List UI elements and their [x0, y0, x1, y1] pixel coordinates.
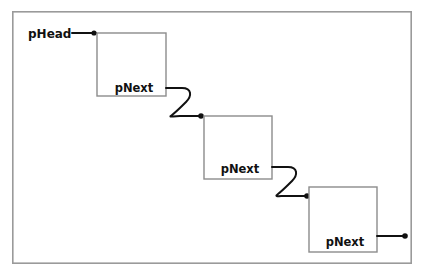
link-terminator-dot — [402, 233, 408, 239]
linked-list-diagram: pHead pNext pNext pNext — [0, 0, 424, 276]
node-label-2: pNext — [221, 162, 260, 176]
link-node1-to-node2-dot — [198, 113, 204, 119]
diagram-canvas: pHead pNext pNext pNext — [0, 0, 424, 276]
node-label-1: pNext — [115, 81, 154, 95]
head-pointer-label: pHead — [28, 27, 71, 41]
node-label-3: pNext — [326, 235, 365, 249]
head-pointer-dot — [91, 30, 96, 35]
